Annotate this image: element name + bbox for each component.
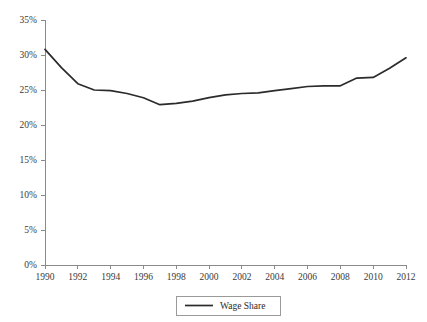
- y-tick-label: 30%: [20, 50, 38, 60]
- y-tick-label: 20%: [20, 120, 38, 130]
- data-series-group: [45, 49, 406, 104]
- y-tick-label: 35%: [20, 15, 38, 25]
- x-tick-label: 1994: [101, 272, 120, 282]
- x-tick-label: 1996: [134, 272, 153, 282]
- x-tick-label: 2002: [232, 272, 251, 282]
- y-tick-group: 0%5%10%15%20%25%30%35%: [20, 15, 45, 270]
- x-axis: 1990199219941996199820002002200420062008…: [36, 265, 416, 282]
- x-tick-label: 2000: [200, 272, 219, 282]
- x-tick-label: 2006: [298, 272, 317, 282]
- x-tick-label: 2004: [265, 272, 284, 282]
- y-axis: 0%5%10%15%20%25%30%35%: [20, 15, 45, 270]
- x-tick-label: 2008: [331, 272, 350, 282]
- y-tick-label: 5%: [24, 225, 37, 235]
- x-tick-label: 1998: [167, 272, 186, 282]
- y-tick-label: 25%: [20, 85, 38, 95]
- wage-share-line-chart: 0%5%10%15%20%25%30%35% 19901992199419961…: [0, 0, 427, 322]
- x-tick-label: 1992: [68, 272, 87, 282]
- y-tick-label: 10%: [20, 190, 38, 200]
- x-tick-label: 2010: [364, 272, 383, 282]
- y-tick-label: 0%: [24, 260, 37, 270]
- x-tick-label: 2012: [397, 272, 416, 282]
- chart-legend: Wage Share: [176, 296, 280, 315]
- chart-canvas: 0%5%10%15%20%25%30%35% 19901992199419961…: [0, 0, 427, 322]
- x-tick-group: 1990199219941996199820002002200420062008…: [36, 265, 416, 282]
- x-tick-label: 1990: [36, 272, 55, 282]
- series-line-wage-share: [45, 49, 406, 104]
- legend-label: Wage Share: [220, 301, 265, 311]
- y-tick-label: 15%: [20, 155, 38, 165]
